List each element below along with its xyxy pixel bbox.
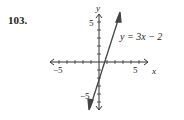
x-axis-label: x — [152, 66, 156, 76]
x-tick-5: 5 — [133, 65, 138, 75]
y-tick-5: 5 — [89, 18, 94, 28]
y-axis-label: y — [96, 3, 100, 13]
equation-label: y = 3x − 2 — [120, 31, 162, 42]
x-tick-neg5: −5 — [53, 65, 63, 75]
y-tick-neg5: −5 — [80, 91, 90, 101]
